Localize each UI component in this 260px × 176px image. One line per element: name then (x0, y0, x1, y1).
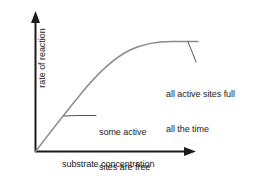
annotation-saturated-line-2: all the time (166, 124, 235, 136)
plateau-leader-line-icon (188, 42, 196, 62)
annotation-all-active-sites-full: all active sites full all the time (166, 66, 235, 158)
x-axis-title: substrate concentration (62, 159, 154, 169)
annotation-saturated-line-1: all active sites full (166, 89, 235, 101)
enzyme-kinetics-diagram: all active sites full all the time some … (0, 0, 260, 176)
rising-leader-line-icon (64, 116, 96, 117)
y-axis-title: rate of reaction (37, 15, 49, 101)
annotation-free-line-1: some active (99, 127, 150, 139)
